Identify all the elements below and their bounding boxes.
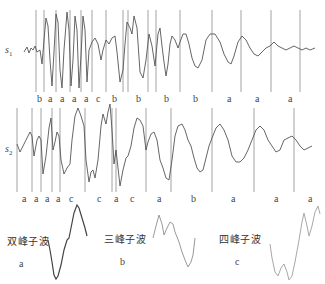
s2-label-sub: 2 bbox=[9, 149, 13, 157]
s2-seg-label: a bbox=[231, 193, 235, 204]
s2-seg-label: a bbox=[114, 193, 118, 204]
s2-seg-label: a bbox=[56, 193, 60, 204]
s1-seg-label: b bbox=[112, 93, 117, 104]
s1-seg-label: b bbox=[136, 93, 141, 104]
s2-seg-label: a bbox=[274, 193, 278, 204]
subwave-a-title: 双峰子波 bbox=[7, 233, 49, 248]
subwave-b-waveform bbox=[153, 215, 195, 267]
s1-seg-label: b bbox=[164, 93, 169, 104]
s2-seg-label: a bbox=[34, 193, 38, 204]
s2-waveform bbox=[17, 104, 312, 186]
s1-seg-label: a bbox=[72, 93, 76, 104]
s2-seg-label: c bbox=[130, 193, 134, 204]
subwave-c-waveform bbox=[270, 206, 320, 280]
s2-seg-label: a bbox=[22, 193, 26, 204]
s1-label-sub: 1 bbox=[9, 50, 13, 58]
subwave-c-letter: c bbox=[235, 256, 239, 267]
s1-seg-label: a bbox=[60, 93, 64, 104]
s2-seg-label: a bbox=[45, 193, 49, 204]
s1-seg-label: b bbox=[37, 93, 42, 104]
s2-seg-label: c bbox=[69, 193, 73, 204]
s1-seg-label: a bbox=[255, 93, 259, 104]
s1-seg-label: a bbox=[288, 93, 292, 104]
s1-seg-label: a bbox=[48, 93, 52, 104]
s2-seg-label: b bbox=[191, 193, 196, 204]
s1-seg-label: a bbox=[227, 93, 231, 104]
subwave-a-letter: a bbox=[19, 258, 23, 269]
s2-seg-label: a bbox=[308, 193, 312, 204]
s1-seg-label: a bbox=[84, 93, 88, 104]
s1-seg-label: b bbox=[193, 93, 198, 104]
subwave-a-waveform bbox=[48, 205, 87, 279]
s1-label: s1 bbox=[5, 44, 12, 58]
subwave-b-title: 三峰子波 bbox=[104, 231, 146, 246]
subwave-b-letter: b bbox=[120, 256, 125, 267]
s1-seg-label: c bbox=[96, 93, 100, 104]
s2-dividers bbox=[17, 108, 294, 192]
s2-seg-label: c bbox=[97, 193, 101, 204]
s2-label: s2 bbox=[5, 143, 12, 157]
subwave-c-title: 四峰子波 bbox=[219, 231, 261, 246]
s2-seg-label: a bbox=[157, 193, 161, 204]
